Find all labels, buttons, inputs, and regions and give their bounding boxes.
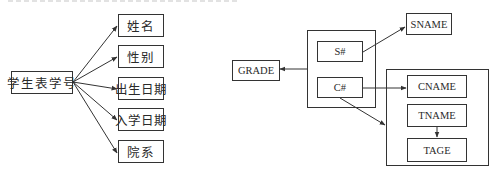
c-key-box: C# [317,77,363,98]
s-key-box: S# [317,41,363,62]
cname-box: CNAME [407,75,467,98]
enrollment-date-box: 入学日期 [118,108,164,131]
student-id-box: 学生表学号 [11,71,73,94]
tname-box: TNAME [407,104,467,127]
tage-box: TAGE [407,138,467,162]
name-box: 姓名 [118,14,164,37]
sname-box: SNAME [406,13,452,35]
gender-box: 性别 [118,45,164,68]
cropped-text-remnant [8,0,240,2]
grade-box: GRADE [232,60,280,81]
birth-date-box: 出生日期 [118,77,164,100]
department-box: 院系 [118,140,164,163]
